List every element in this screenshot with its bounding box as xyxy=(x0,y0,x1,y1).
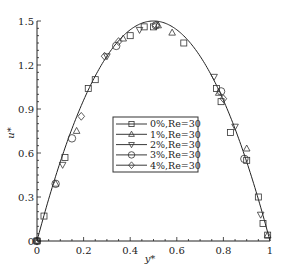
y-tick-label: 0.9 xyxy=(18,104,34,115)
circle-marker-icon xyxy=(68,135,76,143)
legend-label: 4%,Re=30 xyxy=(150,160,201,171)
triangle-up-marker-icon xyxy=(169,29,176,35)
x-tick-label: 0 xyxy=(34,245,40,256)
legend: 0%,Re=301%,Re=302%,Re=303%,Re=304%,Re=30 xyxy=(113,117,201,172)
triangle-up-marker-icon xyxy=(243,145,250,151)
y-axis-label: u* xyxy=(5,127,16,138)
x-tick-label: 1 xyxy=(267,245,273,256)
y-tick-label: 0.3 xyxy=(18,192,34,203)
y-tick-label: 1.5 xyxy=(18,16,34,27)
x-tick-label: 0.4 xyxy=(122,245,138,256)
x-axis-label: y* xyxy=(144,253,156,264)
chart: 00.20.40.60.8100.30.60.91.21.5 y* u* 0%,… xyxy=(0,0,284,269)
y-tick-label: 1.2 xyxy=(18,60,34,71)
x-tick-label: 0.6 xyxy=(169,245,185,256)
diamond-marker-icon xyxy=(78,112,85,120)
square-marker-icon xyxy=(127,33,133,39)
triangle-down-marker-icon xyxy=(136,27,143,33)
x-tick-label: 0.2 xyxy=(76,245,92,256)
y-tick-label: 0.6 xyxy=(18,148,34,159)
square-marker-icon xyxy=(227,129,233,135)
x-tick-label: 0.8 xyxy=(215,245,231,256)
square-marker-icon xyxy=(181,40,187,46)
triangle-up-marker-icon xyxy=(73,127,80,133)
y-tick-label: 0 xyxy=(28,236,34,247)
